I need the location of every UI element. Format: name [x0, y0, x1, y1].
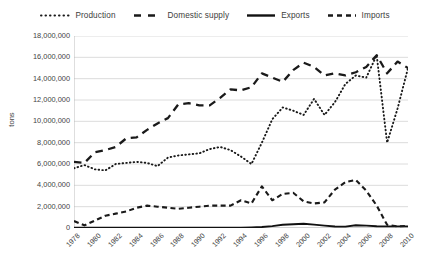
y-tick-label: 18,000,000 — [8, 32, 70, 39]
y-tick-label: 0 — [8, 224, 70, 231]
legend-swatch-solid-icon — [246, 11, 276, 20]
y-tick-label: 14,000,000 — [8, 75, 70, 82]
legend-item-imports: Imports — [327, 11, 390, 20]
legend-label-domestic-supply: Domestic supply — [168, 11, 230, 20]
x-tick-label: 1980 — [77, 232, 102, 257]
y-tick-label: 4,000,000 — [8, 182, 70, 189]
legend-label-exports: Exports — [281, 11, 309, 20]
x-axis-tick-labels: 1978198019821984198619881990199219941996… — [0, 232, 430, 266]
x-tick-label: 2010 — [390, 232, 415, 257]
legend-swatch-dash-icon — [327, 11, 357, 20]
x-tick-label: 1978 — [56, 232, 81, 257]
legend-label-imports: Imports — [362, 11, 390, 20]
y-axis-tick-labels: 18,000,00016,000,00014,000,00012,000,000… — [0, 0, 70, 266]
x-tick-label: 1994 — [223, 232, 248, 257]
plot-svg — [74, 36, 408, 228]
series-line-imports — [74, 180, 408, 226]
x-tick-label: 1992 — [202, 232, 227, 257]
y-tick-label: 16,000,000 — [8, 54, 70, 61]
series-line-domestic-supply — [74, 55, 408, 163]
plot-area — [74, 36, 408, 228]
legend-item-exports: Exports — [246, 11, 309, 20]
y-tick-label: 2,000,000 — [8, 203, 70, 210]
y-tick-label: 8,000,000 — [8, 139, 70, 146]
legend-swatch-longdash-icon — [133, 11, 163, 20]
legend-label-production: Production — [75, 11, 115, 20]
legend-item-domestic-supply: Domestic supply — [133, 11, 230, 20]
y-tick-label: 6,000,000 — [8, 160, 70, 167]
x-tick-label: 1996 — [244, 232, 269, 257]
series-line-exports — [74, 224, 408, 228]
y-tick-label: 10,000,000 — [8, 118, 70, 125]
x-tick-label: 2008 — [369, 232, 394, 257]
chart-figure: Production Domestic supply Exports Impor… — [0, 0, 430, 266]
y-tick-label: 12,000,000 — [8, 96, 70, 103]
